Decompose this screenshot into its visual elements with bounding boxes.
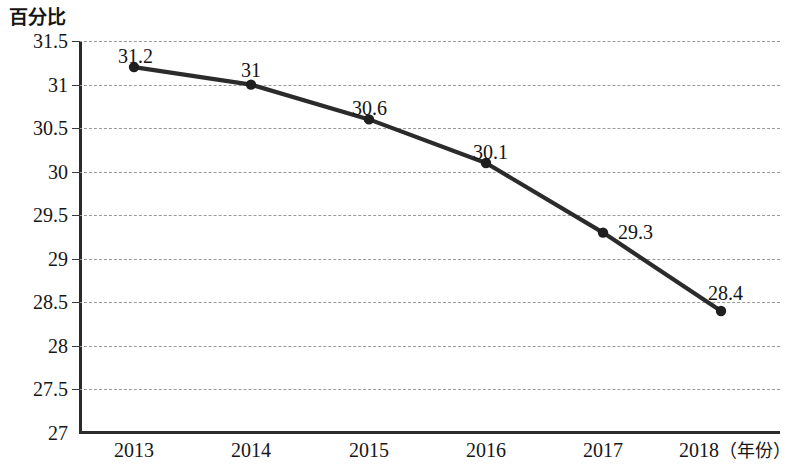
y-tick-label: 29.5 — [33, 205, 68, 225]
y-tick-mark — [72, 215, 80, 216]
y-tick-label: 29 — [48, 249, 68, 269]
point-label-2015: 30.6 — [352, 98, 387, 118]
x-tick-label-2018: 2018（年份） — [679, 440, 791, 460]
x-axis-line — [79, 431, 780, 434]
gridline — [79, 259, 780, 260]
x-tick-label-2015: 2015 — [349, 440, 389, 460]
x-tick-label-2013: 2013 — [114, 440, 154, 460]
y-tick-mark — [72, 128, 80, 129]
gridline — [79, 215, 780, 216]
y-tick-label: 30 — [48, 162, 68, 182]
y-tick-mark — [72, 346, 80, 347]
y-tick-mark — [72, 389, 80, 390]
point-label-2017: 29.3 — [618, 222, 653, 242]
x-tick-label-2014: 2014 — [231, 440, 271, 460]
x-tick-label-2017: 2017 — [583, 440, 623, 460]
x-tick-label-2016: 2016 — [466, 440, 506, 460]
y-axis-unit-label: 百分比 — [9, 2, 66, 29]
y-tick-label: 31 — [48, 75, 68, 95]
gridline — [79, 172, 780, 173]
gridline — [79, 346, 780, 347]
plot-area — [79, 41, 780, 433]
gridline — [79, 302, 780, 303]
point-label-2018: 28.4 — [708, 283, 743, 303]
line-chart: 百分比 31.5 31 30.5 30 29.5 29 28.5 28 27.5… — [0, 0, 807, 473]
y-tick-mark — [72, 172, 80, 173]
point-label-2016: 30.1 — [473, 142, 508, 162]
x-axis-unit-label: （年份） — [719, 440, 791, 461]
gridline — [79, 41, 780, 42]
y-tick-mark — [72, 302, 80, 303]
x-tick-label-2018-text: 2018 — [679, 439, 719, 461]
gridline — [79, 85, 780, 86]
gridline — [79, 128, 780, 129]
y-tick-label: 31.5 — [33, 31, 68, 51]
point-label-2013: 31.2 — [118, 46, 153, 66]
y-tick-mark — [72, 85, 80, 86]
y-tick-label: 30.5 — [33, 118, 68, 138]
point-label-2014: 31 — [241, 60, 261, 80]
y-tick-label: 27 — [48, 423, 68, 443]
y-axis-tick-labels: 31.5 31 30.5 30 29.5 29 28.5 28 27.5 27 — [0, 41, 68, 434]
y-axis-line — [79, 41, 82, 434]
gridline — [79, 389, 780, 390]
y-tick-label: 28.5 — [33, 292, 68, 312]
y-tick-mark — [72, 41, 80, 42]
y-tick-label: 27.5 — [33, 379, 68, 399]
y-tick-label: 28 — [48, 336, 68, 356]
y-tick-mark — [72, 259, 80, 260]
